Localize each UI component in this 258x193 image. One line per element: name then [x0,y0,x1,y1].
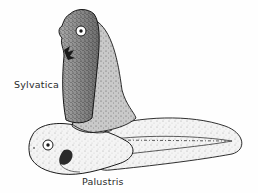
tadpole-illustration: Sylvatica Palustris [0,0,258,193]
palustris-nostril [33,147,35,149]
sylvatica-tadpole [59,10,136,133]
palustris-label: Palustris [82,176,124,187]
illustration-drawing [0,0,258,193]
sylvatica-label: Sylvatica [14,79,59,90]
palustris-tadpole [29,118,242,174]
